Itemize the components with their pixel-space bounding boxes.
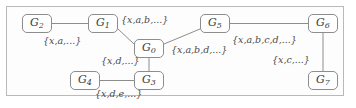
edge-label-g0-g3: {x,d,...}	[101, 56, 140, 66]
node-g4-label: G4	[78, 74, 92, 87]
node-g5-label: G5	[208, 17, 222, 30]
edge-label-g2-g1: {x,a,...}	[43, 36, 81, 46]
node-g2-label: G2	[30, 17, 44, 30]
edge-label-g5-g6: {x,a,b,c,d,...}	[232, 35, 297, 45]
edge-label-g6-g7: {x,c,...}	[272, 55, 310, 65]
node-g7-label: G7	[316, 74, 330, 87]
edge-g1-g0	[118, 29, 134, 44]
node-g1[interactable]: G1	[88, 14, 118, 33]
node-g2[interactable]: G2	[22, 14, 52, 33]
diagram-canvas: G2 G1 G5 G6 G0 G7 G4 G3 {x,a,...} {x,a,b…	[0, 0, 356, 108]
node-g3-label: G3	[142, 74, 156, 87]
edge-g0-g5	[164, 29, 200, 44]
edge-label-g4-g3: {x,d,e,...}	[95, 89, 142, 99]
node-g5[interactable]: G5	[200, 14, 230, 33]
edge-label-g1-g0: {x,a,b,...}	[121, 15, 168, 25]
edge-label-g0-g5: {x,a,b,d,...}	[171, 45, 227, 55]
node-g0-label: G0	[142, 42, 156, 55]
node-g6-label: G6	[316, 17, 330, 30]
node-g7[interactable]: G7	[308, 71, 338, 90]
node-g1-label: G1	[96, 17, 110, 30]
node-g6[interactable]: G6	[308, 14, 338, 33]
